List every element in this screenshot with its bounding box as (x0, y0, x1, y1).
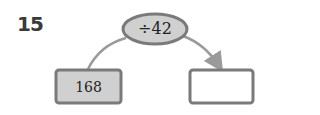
arrow-icon (183, 36, 219, 66)
operation-label: ÷42 (124, 17, 186, 41)
input-value: 168 (57, 73, 120, 101)
answer-field[interactable] (191, 73, 252, 101)
connector-line (88, 38, 126, 69)
